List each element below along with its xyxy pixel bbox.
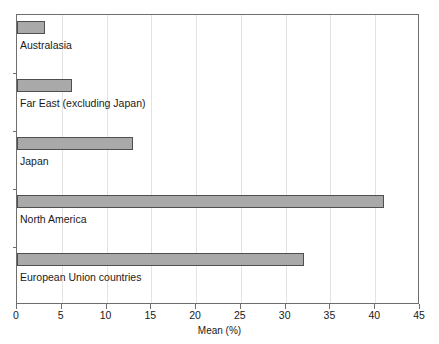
x-axis-tick-labels: 051015202530354045 [16, 309, 419, 323]
y-axis-tick [13, 73, 17, 74]
bar-category-label: Australasia [20, 39, 72, 51]
bar [17, 253, 304, 266]
bar-category-label: Far East (excluding Japan) [20, 97, 145, 109]
bar-category-label: Japan [20, 155, 49, 167]
x-axis-tick-label: 0 [13, 309, 19, 322]
y-axis-tick [13, 189, 17, 190]
x-axis-tick-label: 10 [100, 309, 112, 322]
y-axis-tick [13, 131, 17, 132]
x-axis-tick-label: 25 [234, 309, 246, 322]
bar-row: North America [17, 189, 420, 247]
bar [17, 79, 72, 92]
plot-area: AustralasiaFar East (excluding Japan)Jap… [16, 14, 419, 304]
bars-layer: AustralasiaFar East (excluding Japan)Jap… [17, 15, 418, 303]
bar [17, 21, 45, 34]
x-axis-title: Mean (%) [0, 325, 439, 337]
x-axis-tick-label: 35 [324, 309, 336, 322]
bar-row: Far East (excluding Japan) [17, 73, 420, 131]
x-axis-tick-label: 15 [144, 309, 156, 322]
x-axis-tick-label: 40 [368, 309, 380, 322]
x-axis-tick-label: 20 [189, 309, 201, 322]
bar [17, 137, 133, 150]
x-axis-tick-label: 45 [413, 309, 425, 322]
x-axis-tick-label: 30 [279, 309, 291, 322]
x-axis-tick-label: 5 [58, 309, 64, 322]
bar-chart: AustralasiaFar East (excluding Japan)Jap… [0, 0, 439, 344]
y-axis-tick [13, 247, 17, 248]
bar-category-label: European Union countries [20, 271, 141, 283]
bar-category-label: North America [20, 213, 87, 225]
bar-row: European Union countries [17, 247, 420, 305]
bar-row: Japan [17, 131, 420, 189]
bar [17, 195, 384, 208]
bar-row: Australasia [17, 15, 420, 73]
